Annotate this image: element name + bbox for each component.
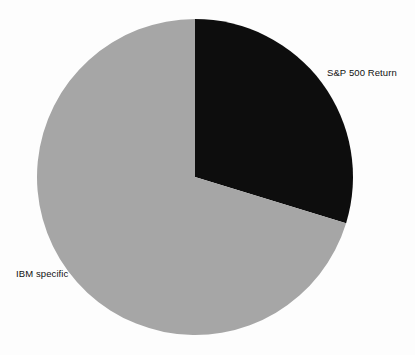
pie-slices-group bbox=[37, 19, 353, 335]
pie-chart-canvas bbox=[0, 0, 415, 355]
slice-label-ibm-specific: IBM specific bbox=[16, 269, 68, 279]
slice-label-sp500-return: S&P 500 Return bbox=[327, 68, 397, 78]
pie-chart-figure: S&P 500 Return IBM specific bbox=[0, 0, 415, 355]
